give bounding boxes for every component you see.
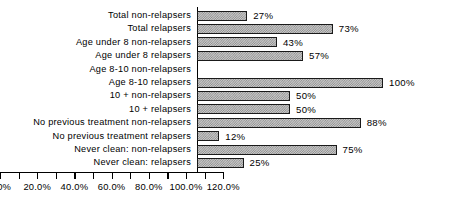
bar-chart: Total non-relapsersTotal relapsersAge un… xyxy=(0,0,455,201)
bar xyxy=(197,131,219,141)
category-label: Age 8-10 non-relapsers xyxy=(89,63,191,76)
bar-row: 43% xyxy=(197,36,421,49)
bar xyxy=(197,24,333,34)
plot-area: 27%73%43%57%100%50%50%88%12%75%25% xyxy=(197,0,421,172)
x-axis-major-tick xyxy=(223,172,224,179)
x-axis-tick-label: 20.0% xyxy=(23,181,51,192)
bar-value-label: 57% xyxy=(309,49,329,62)
category-label: Never clean: relapsers xyxy=(94,156,191,169)
category-label: Total relapsers xyxy=(128,22,192,35)
bar xyxy=(197,158,244,168)
x-axis-minor-tick xyxy=(56,172,57,179)
x-axis-major-tick xyxy=(149,172,150,179)
category-label: Never clean: non-relapsers xyxy=(74,143,191,156)
category-label: Age 8-10 relapsers xyxy=(109,76,191,89)
category-label: No previous treatment relapsers xyxy=(53,130,191,143)
x-axis-minor-tick xyxy=(167,172,168,179)
bar-row: 57% xyxy=(197,49,421,62)
category-label: Age under 8 relapsers xyxy=(95,49,191,62)
bar-row: 12% xyxy=(197,130,421,143)
bar xyxy=(197,145,337,155)
bar xyxy=(197,118,361,128)
category-label: 10 + relapsers xyxy=(129,103,191,116)
bar-row: 27% xyxy=(197,9,421,22)
bar xyxy=(197,104,290,114)
category-label: Age under 8 non-relapsers xyxy=(76,36,191,49)
category-axis-labels: Total non-relapsersTotal relapsersAge un… xyxy=(0,0,194,172)
x-axis-minor-tick xyxy=(205,172,206,179)
x-axis: 0.0%20.0%40.0%60.0%80.0%100.0%120.0% xyxy=(0,172,224,201)
x-axis-tick-label: 100.0% xyxy=(170,181,203,192)
bar-row: 50% xyxy=(197,103,421,116)
bar xyxy=(197,91,290,101)
x-axis-tick-label: 40.0% xyxy=(61,181,89,192)
x-axis-minor-tick xyxy=(130,172,131,179)
x-axis-tick-label: 0.0% xyxy=(0,181,11,192)
bar-row: 25% xyxy=(197,156,421,169)
bar-row: 75% xyxy=(197,143,421,156)
bar xyxy=(197,78,383,88)
bar-value-label: 100% xyxy=(389,76,415,89)
x-axis-tick-label: 80.0% xyxy=(135,181,163,192)
bar-row: 73% xyxy=(197,22,421,35)
bar xyxy=(197,51,303,61)
x-axis-major-tick xyxy=(74,172,75,179)
category-label: 10 + non-relapsers xyxy=(110,89,191,102)
bar-row: 100% xyxy=(197,76,421,89)
bar-value-label: 50% xyxy=(296,103,316,116)
bar xyxy=(197,37,277,47)
bar-value-label: 12% xyxy=(225,130,245,143)
bar-value-label: 43% xyxy=(283,36,303,49)
category-label: Total non-relapsers xyxy=(108,9,191,22)
category-label: No previous treatment non-relapsers xyxy=(33,116,191,129)
x-axis-major-tick xyxy=(37,172,38,179)
bar-value-label: 27% xyxy=(253,9,273,22)
bar-value-label: 75% xyxy=(343,143,363,156)
x-axis-minor-tick xyxy=(93,172,94,179)
x-axis-major-tick xyxy=(0,172,1,179)
bar-row: 50% xyxy=(197,89,421,102)
x-axis-major-tick xyxy=(112,172,113,179)
x-axis-major-tick xyxy=(186,172,187,179)
bar-value-label: 88% xyxy=(367,116,387,129)
bar-row xyxy=(197,63,421,76)
x-axis-minor-tick xyxy=(19,172,20,179)
bar-value-label: 73% xyxy=(339,22,359,35)
bar-value-label: 25% xyxy=(250,156,270,169)
bar-value-label: 50% xyxy=(296,89,316,102)
x-axis-tick-label: 60.0% xyxy=(98,181,126,192)
bar-row: 88% xyxy=(197,116,421,129)
x-axis-tick-label: 120.0% xyxy=(207,181,240,192)
bar xyxy=(197,11,247,21)
